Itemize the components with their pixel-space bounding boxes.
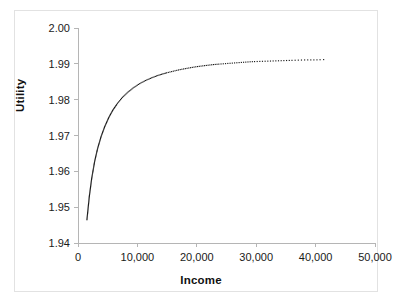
x-tick-label: 20,000 <box>180 252 214 263</box>
y-tick-label: 1.95 <box>38 202 70 213</box>
x-tick-label: 50,000 <box>358 252 392 263</box>
data-series <box>86 59 324 220</box>
plot-area: 1.941.951.961.971.981.992.00 010,00020,0… <box>0 0 402 308</box>
x-tick-label: 0 <box>75 252 81 263</box>
y-tick-label: 1.94 <box>38 238 70 249</box>
y-tick-label: 2.00 <box>38 23 70 34</box>
axis-ticks <box>74 28 375 247</box>
y-tick-label: 1.98 <box>38 94 70 105</box>
x-tick-label: 10,000 <box>121 252 155 263</box>
x-axis-title: Income <box>0 274 402 286</box>
y-tick-label: 1.97 <box>38 130 70 141</box>
x-tick-label: 30,000 <box>239 252 273 263</box>
y-axis-title: Utility <box>14 79 26 112</box>
y-tick-label: 1.96 <box>38 166 70 177</box>
axis-lines <box>78 28 375 243</box>
y-tick-label: 1.99 <box>38 58 70 69</box>
x-tick-label: 40,000 <box>299 252 333 263</box>
chart-figure: 1.941.951.961.971.981.992.00 010,00020,0… <box>0 0 402 308</box>
